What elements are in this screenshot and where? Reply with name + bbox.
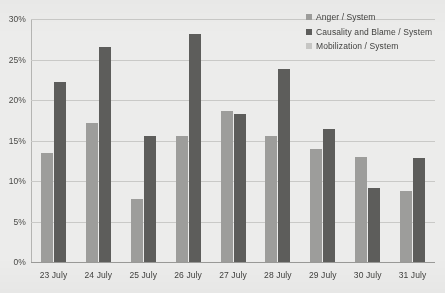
bar bbox=[86, 123, 98, 262]
bar bbox=[278, 69, 290, 262]
legend-item: Causality and Blame / System bbox=[306, 27, 432, 37]
bar bbox=[131, 199, 143, 262]
bar-group-bars bbox=[166, 19, 211, 262]
bar-group-bars bbox=[121, 19, 166, 262]
plot-area: 0%5%10%15%20%25%30% bbox=[31, 19, 435, 262]
y-tick-label: 20% bbox=[9, 95, 26, 105]
bar bbox=[400, 191, 412, 262]
y-tick-label: 0% bbox=[14, 257, 27, 267]
bar-group-bars bbox=[76, 19, 121, 262]
bar bbox=[413, 158, 425, 262]
legend-swatch-icon bbox=[306, 29, 312, 35]
bar-chart: 0%5%10%15%20%25%30% 23 July24 July25 Jul… bbox=[0, 0, 445, 293]
bar bbox=[144, 136, 156, 262]
bar bbox=[41, 153, 53, 262]
bar bbox=[310, 149, 322, 262]
bar-group bbox=[300, 19, 345, 262]
y-tick-label: 30% bbox=[9, 14, 26, 24]
bar bbox=[368, 188, 380, 262]
legend-label: Mobilization / System bbox=[316, 41, 398, 51]
bar-group-bars bbox=[300, 19, 345, 262]
legend-swatch-icon bbox=[306, 14, 312, 20]
bar-group bbox=[31, 19, 76, 262]
x-tick-label: 25 July bbox=[121, 270, 166, 280]
y-tick-label: 25% bbox=[9, 55, 26, 65]
legend-item: Mobilization / System bbox=[306, 41, 432, 51]
bar-group-bars bbox=[31, 19, 76, 262]
bar bbox=[265, 136, 277, 262]
bar-group-bars bbox=[390, 19, 435, 262]
bar-group bbox=[390, 19, 435, 262]
bar-group bbox=[121, 19, 166, 262]
x-tick-label: 28 July bbox=[255, 270, 300, 280]
bar-group-bars bbox=[255, 19, 300, 262]
legend-label: Anger / System bbox=[316, 12, 376, 22]
x-axis-tick-labels: 23 July24 July25 July26 July27 July28 Ju… bbox=[31, 270, 435, 280]
bar bbox=[221, 111, 233, 262]
gridline bbox=[31, 262, 435, 263]
x-tick-label: 27 July bbox=[211, 270, 256, 280]
bar bbox=[176, 136, 188, 262]
bar-group bbox=[76, 19, 121, 262]
bar bbox=[54, 82, 66, 262]
bar-group bbox=[345, 19, 390, 262]
bar-groups bbox=[31, 19, 435, 262]
y-tick-label: 10% bbox=[9, 176, 26, 186]
bar-group-bars bbox=[345, 19, 390, 262]
bar-group bbox=[255, 19, 300, 262]
bar bbox=[323, 129, 335, 262]
x-tick-label: 29 July bbox=[300, 270, 345, 280]
legend-swatch-icon bbox=[306, 43, 312, 49]
bar-group bbox=[166, 19, 211, 262]
bar bbox=[99, 47, 111, 262]
legend-item: Anger / System bbox=[306, 12, 432, 22]
bar-group-bars bbox=[211, 19, 256, 262]
x-tick-label: 24 July bbox=[76, 270, 121, 280]
bar bbox=[234, 114, 246, 262]
y-tick-label: 15% bbox=[9, 136, 26, 146]
x-tick-label: 26 July bbox=[166, 270, 211, 280]
x-tick-label: 30 July bbox=[345, 270, 390, 280]
x-tick-label: 23 July bbox=[31, 270, 76, 280]
bar bbox=[355, 157, 367, 262]
chart-legend: Anger / SystemCausality and Blame / Syst… bbox=[306, 12, 432, 51]
y-tick-label: 5% bbox=[14, 217, 27, 227]
bar bbox=[189, 34, 201, 262]
x-tick-label: 31 July bbox=[390, 270, 435, 280]
legend-label: Causality and Blame / System bbox=[316, 27, 432, 37]
bar-group bbox=[211, 19, 256, 262]
